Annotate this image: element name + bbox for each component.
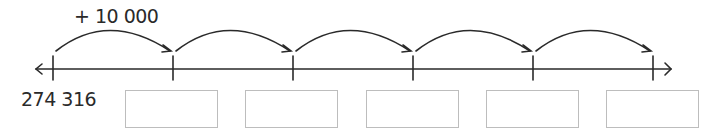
jump-label: + 10 000 [74, 5, 158, 27]
answer-box-2[interactable] [245, 90, 338, 128]
jump-arrowhead-2 [282, 45, 291, 52]
jump-arc-3 [296, 31, 410, 52]
jump-arc-5 [536, 31, 650, 52]
jump-arrowhead-3 [402, 45, 411, 52]
jump-arc-1 [56, 31, 170, 52]
jump-arrowhead-5 [642, 45, 651, 52]
jump-arrowhead-4 [522, 45, 531, 52]
jump-arrowhead-1 [162, 45, 171, 52]
answer-box-5[interactable] [606, 90, 699, 128]
answer-box-1[interactable] [125, 90, 218, 128]
answer-box-3[interactable] [366, 90, 459, 128]
jump-arc-4 [416, 31, 530, 52]
answer-box-4[interactable] [486, 90, 579, 128]
start-value-label: 274 316 [21, 88, 96, 110]
jump-arc-2 [176, 31, 290, 52]
